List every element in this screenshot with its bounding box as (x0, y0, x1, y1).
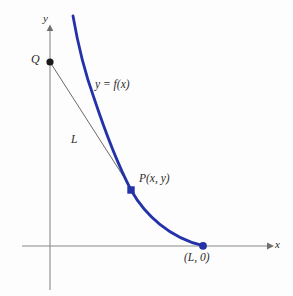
point-Q-marker (46, 58, 53, 65)
x-intercept-label: (L, 0) (184, 252, 210, 264)
y-axis-label: y (43, 13, 48, 24)
point-Q-label: Q (31, 53, 40, 65)
figure-container: y x Q y = f(x) L P(x, y) (L, 0) (0, 0, 293, 296)
tangent-length-label: L (71, 134, 77, 146)
curve-y-equals-f-of-x (73, 16, 203, 246)
x-axis-label: x (275, 239, 280, 250)
function-graph-figure (0, 0, 293, 296)
point-P-marker (127, 186, 134, 193)
point-P-label: P(x, y) (139, 173, 170, 185)
x-axis-arrow-icon (267, 243, 274, 250)
y-axis-arrow-icon (47, 25, 54, 32)
curve-equation-label: y = f(x) (95, 79, 130, 91)
point-L-zero-marker (199, 242, 207, 250)
